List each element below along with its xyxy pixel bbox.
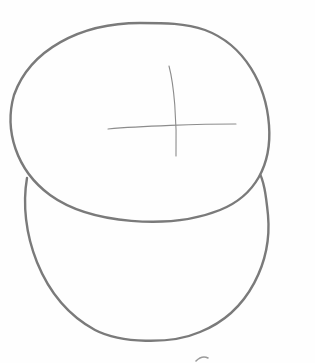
smudge-mark: [196, 357, 208, 361]
sketch-drawing: [0, 0, 315, 363]
upper-oval: [11, 23, 270, 222]
sketch-canvas: [0, 0, 315, 363]
